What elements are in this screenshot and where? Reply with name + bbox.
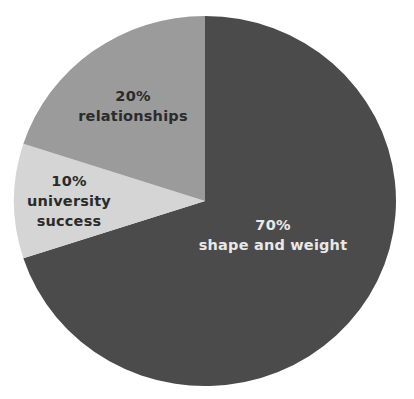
label-university-success: 10% university success	[27, 171, 111, 231]
label-university-pct: 10%	[27, 171, 111, 191]
label-shape-and-weight: 70% shape and weight	[199, 215, 348, 255]
label-relationships: 20% relationships	[78, 86, 187, 126]
label-relationships-text: relationships	[78, 106, 187, 126]
label-shape-pct: 70%	[199, 215, 348, 235]
label-university-text-2: success	[27, 211, 111, 231]
label-university-text-1: university	[27, 191, 111, 211]
label-shape-text: shape and weight	[199, 235, 348, 255]
label-relationships-pct: 20%	[78, 86, 187, 106]
